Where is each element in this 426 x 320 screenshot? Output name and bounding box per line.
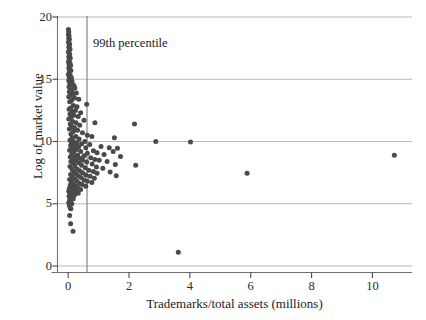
- data-point: [97, 158, 102, 163]
- data-point: [71, 229, 76, 234]
- data-point: [245, 171, 250, 176]
- x-tick-label: 10: [352, 280, 392, 293]
- x-tick-label: 6: [231, 280, 271, 293]
- data-point: [107, 145, 112, 150]
- data-point: [92, 157, 97, 162]
- data-point: [114, 173, 119, 178]
- data-point: [102, 152, 107, 157]
- x-tick-label: 4: [170, 280, 210, 293]
- scatter-plot-figure: 051015200246810 99th percentile Log of m…: [0, 0, 426, 320]
- data-point: [188, 140, 193, 145]
- axis-lines-group: [52, 16, 413, 273]
- data-point: [90, 161, 95, 166]
- data-point: [68, 221, 73, 226]
- gridlines-group: [58, 17, 413, 266]
- data-point: [88, 155, 93, 160]
- data-point: [83, 173, 88, 178]
- data-point: [81, 118, 86, 123]
- data-point: [95, 150, 100, 155]
- data-point: [153, 139, 158, 144]
- data-point: [92, 120, 97, 125]
- data-point: [132, 122, 137, 127]
- data-point: [68, 206, 73, 211]
- data-point: [83, 184, 88, 189]
- data-point: [105, 159, 110, 164]
- data-point: [112, 135, 117, 140]
- data-point: [95, 171, 100, 176]
- data-point: [89, 134, 94, 139]
- x-axis-title: Trademarks/total assets (millions): [57, 296, 412, 312]
- data-point: [100, 166, 105, 171]
- data-point: [108, 170, 113, 175]
- data-point: [94, 165, 99, 170]
- data-point: [84, 160, 89, 165]
- plot-canvas: [0, 0, 426, 320]
- y-tick-label: 0: [20, 260, 52, 273]
- data-point: [392, 153, 397, 158]
- percentile-annotation-label: 99th percentile: [93, 36, 168, 51]
- data-point: [84, 102, 89, 107]
- data-point: [133, 163, 138, 168]
- data-point: [76, 97, 81, 102]
- data-point: [83, 145, 88, 150]
- data-point: [87, 142, 92, 147]
- data-point: [81, 153, 86, 158]
- x-tick-label: 8: [292, 280, 332, 293]
- data-point: [86, 168, 91, 173]
- y-tick-label: 20: [20, 11, 52, 24]
- x-tick-label: 2: [109, 280, 149, 293]
- data-point: [75, 128, 80, 133]
- data-point: [111, 149, 116, 154]
- data-point: [99, 144, 104, 149]
- y-axis-title: Log of market value: [30, 26, 46, 226]
- data-point: [176, 250, 181, 255]
- data-point: [92, 176, 97, 181]
- data-point: [88, 174, 93, 179]
- data-point: [85, 179, 90, 184]
- x-tick-label: 0: [48, 280, 88, 293]
- data-point: [67, 213, 72, 218]
- data-point: [76, 114, 81, 119]
- data-point: [89, 180, 94, 185]
- data-point: [77, 123, 82, 128]
- data-point: [80, 130, 85, 135]
- data-points-group: [66, 27, 397, 255]
- data-point: [118, 154, 123, 159]
- data-point: [113, 162, 118, 167]
- data-point: [67, 99, 72, 104]
- data-point: [115, 146, 120, 151]
- data-point: [85, 133, 90, 138]
